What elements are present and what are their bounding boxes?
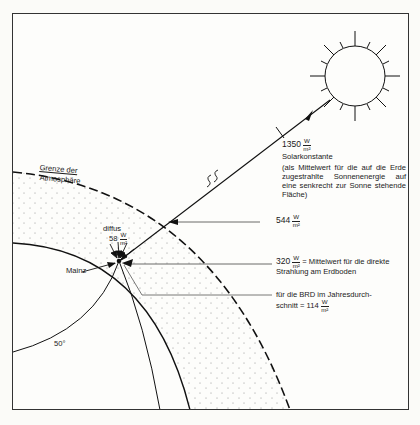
atmosphere-top-value: 544 Wm² xyxy=(276,214,300,228)
unit-fraction: Wm² xyxy=(321,299,329,313)
sun xyxy=(310,31,400,121)
unit-fraction: Wm² xyxy=(303,138,311,152)
mainz-point xyxy=(117,259,122,264)
diffuse-value: 58 Wm² xyxy=(109,232,127,246)
ray-tick xyxy=(276,127,284,138)
latitude-label: 50° xyxy=(54,339,65,348)
solar-constant-value: 1350 Wm² xyxy=(282,138,311,152)
ray-break-symbol xyxy=(207,170,218,187)
solar-constant-description: (als Mittelwert für die auf die Erde zug… xyxy=(282,163,406,199)
ray-arrowhead xyxy=(305,110,313,121)
unit-fraction: Wm² xyxy=(292,214,300,228)
diagram-canvas xyxy=(0,0,420,425)
ground-direct-line2: Strahlung am Erdboden xyxy=(276,267,356,276)
unit-fraction: Wm² xyxy=(120,232,128,246)
brd-average-line2: schnitt = 114 Wm² xyxy=(276,299,329,313)
atmosphere-band xyxy=(13,172,290,410)
mainz-label: Mainz xyxy=(66,266,86,275)
solar-constant-title: Solarkonstante xyxy=(282,152,333,161)
